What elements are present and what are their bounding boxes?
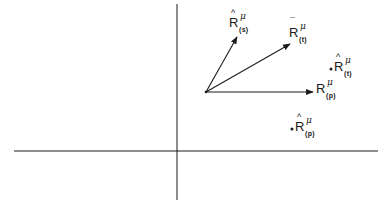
label-base: R — [316, 81, 325, 96]
bar-accent: ¯ — [290, 17, 295, 26]
label-r-hat-t: ^ R μ (t) — [334, 58, 343, 74]
label-superscript: μ — [306, 116, 312, 125]
label-subscript: (t) — [344, 70, 352, 77]
label-subscript: (p) — [305, 130, 315, 137]
diagram-graphics — [0, 0, 386, 206]
label-r-p: R μ (p) — [316, 80, 325, 96]
label-base: R — [289, 25, 298, 40]
point-r-hat-t — [330, 68, 333, 71]
label-subscript: (p) — [326, 92, 336, 99]
point-r-hat-p — [291, 128, 294, 131]
label-superscript: μ — [345, 56, 351, 65]
vector-diagram: ^ R μ (s) ¯ R μ (t) R μ (p) ^ R μ (t) ^ … — [0, 0, 386, 206]
hat-accent: ^ — [336, 53, 340, 62]
origin-point — [205, 91, 208, 94]
label-r-bar-t: ¯ R μ (t) — [289, 24, 298, 40]
hat-accent: ^ — [297, 113, 301, 122]
hat-accent: ^ — [231, 9, 235, 18]
label-r-hat-s: ^ R μ (s) — [229, 14, 238, 30]
label-r-hat-p: ^ R μ (p) — [295, 118, 304, 134]
label-superscript: μ — [327, 78, 333, 87]
label-superscript: μ — [300, 22, 306, 31]
vector-r-bar-t-arrow — [206, 44, 290, 92]
label-subscript: (t) — [299, 36, 307, 43]
label-superscript: μ — [240, 12, 246, 21]
label-subscript: (s) — [239, 26, 248, 33]
